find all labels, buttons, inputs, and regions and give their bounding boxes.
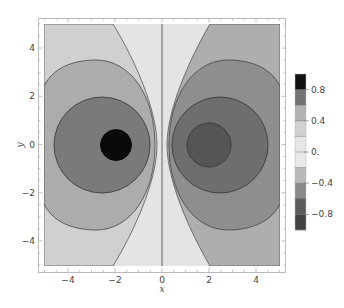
y-axis-label: y bbox=[15, 142, 25, 149]
y-tick-label: 0 bbox=[29, 140, 35, 150]
legend-band bbox=[295, 121, 306, 137]
x-tick-label: 2 bbox=[206, 275, 212, 285]
x-tick-label: 4 bbox=[253, 275, 259, 285]
y-tick-label: 4 bbox=[29, 43, 35, 53]
legend-band bbox=[295, 90, 306, 106]
x-tick-label: −2 bbox=[108, 275, 121, 285]
legend-band bbox=[295, 105, 306, 121]
legend-tick-label: −0.8 bbox=[311, 209, 333, 219]
legend-band bbox=[295, 74, 306, 90]
contour-region-right-neg0.8 bbox=[187, 123, 231, 167]
legend-tick-label: 0.8 bbox=[311, 85, 326, 95]
contour-region-left-0.8 bbox=[101, 130, 132, 161]
legend-band bbox=[295, 136, 306, 152]
legend-tick-label: 0.4 bbox=[311, 116, 326, 126]
x-tick-label: −4 bbox=[61, 275, 75, 285]
y-tick-label: −4 bbox=[22, 236, 36, 246]
y-tick-label: 2 bbox=[29, 91, 35, 101]
legend-band bbox=[295, 168, 306, 184]
legend-band bbox=[295, 183, 306, 199]
legend-tick-label: −0.4 bbox=[311, 178, 333, 188]
color-legend: 0.80.40.−0.4−0.8 bbox=[295, 74, 333, 230]
legend-band bbox=[295, 199, 306, 215]
contour-plot: −4−2024 −4−2024 x y 0.80.40.−0.4−0.8 bbox=[0, 0, 344, 308]
contour-fills bbox=[44, 24, 280, 266]
legend-band bbox=[295, 152, 306, 168]
legend-tick-label: 0. bbox=[311, 147, 320, 157]
x-axis-label: x bbox=[159, 284, 164, 294]
y-tick-label: −2 bbox=[22, 188, 35, 198]
legend-band bbox=[295, 214, 306, 230]
